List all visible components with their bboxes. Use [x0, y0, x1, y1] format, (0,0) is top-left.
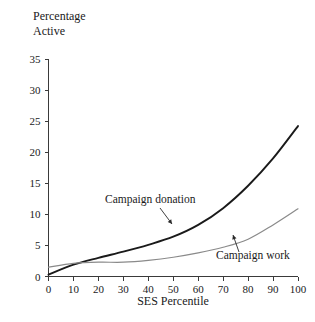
y-tick-label: 35	[30, 53, 42, 65]
x-tick-label: 10	[68, 283, 80, 295]
x-tick-label: 100	[290, 283, 307, 295]
x-tick-label: 20	[93, 283, 105, 295]
x-tick-label: 70	[218, 283, 230, 295]
series-annotation-label: Campaign work	[216, 249, 290, 262]
y-tick-label: 30	[30, 84, 42, 96]
x-tick-label: 0	[46, 283, 52, 295]
y-axis-ticks: 05101520253035	[30, 53, 49, 283]
annotations-group: Campaign donationCampaign work	[105, 193, 290, 262]
y-tick-label: 25	[30, 115, 42, 127]
y-axis-title: Percentage Active	[33, 9, 86, 38]
axes	[49, 59, 299, 277]
series-annotation-label: Campaign donation	[105, 193, 196, 206]
x-tick-label: 50	[168, 283, 180, 295]
x-tick-label: 30	[118, 283, 130, 295]
y-tick-label: 5	[35, 239, 41, 251]
x-axis-ticks: 0102030405060708090100	[46, 277, 307, 295]
y-axis-title-line2: Active	[33, 24, 65, 38]
x-tick-label: 80	[243, 283, 255, 295]
x-tick-label: 90	[268, 283, 280, 295]
y-tick-label: 0	[35, 271, 41, 283]
x-tick-label: 40	[143, 283, 155, 295]
x-tick-label: 60	[193, 283, 205, 295]
y-tick-label: 20	[30, 146, 42, 158]
y-tick-label: 15	[30, 177, 42, 189]
annotation-arrowhead	[168, 219, 172, 224]
y-axis-title-line1: Percentage	[33, 9, 86, 23]
y-tick-label: 10	[30, 208, 42, 220]
line-chart: Percentage Active 05101520253035 0102030…	[0, 0, 315, 322]
chart-container: Percentage Active 05101520253035 0102030…	[0, 0, 315, 322]
x-axis-title: SES Percentile	[137, 294, 209, 308]
